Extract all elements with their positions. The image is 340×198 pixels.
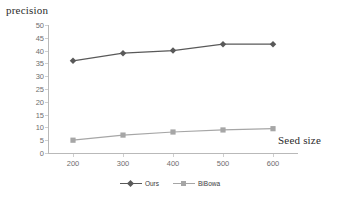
x-tick-label: 500 xyxy=(217,159,230,168)
data-point-marker xyxy=(170,129,175,134)
series-plot xyxy=(48,25,298,153)
x-tick-mark xyxy=(173,154,174,157)
y-tick-label: 50 xyxy=(36,21,44,30)
series-ours xyxy=(70,41,277,64)
precision-vs-seed-size-chart: precision Seed size 05101520253035404550… xyxy=(0,0,340,198)
x-tick-label: 600 xyxy=(267,159,280,168)
legend-entry-bibowa[interactable]: BiBowa xyxy=(173,180,220,187)
data-point-marker xyxy=(220,41,227,48)
legend-entry-ours[interactable]: Ours xyxy=(120,180,159,187)
x-tick-label: 200 xyxy=(67,159,80,168)
x-tick-mark xyxy=(73,154,74,157)
y-axis-title: precision xyxy=(6,4,48,16)
data-point-marker xyxy=(120,132,125,137)
legend-label: BiBowa xyxy=(198,180,220,187)
x-tick-mark xyxy=(223,154,224,157)
legend-swatch-icon xyxy=(120,180,142,187)
y-tick-label: 35 xyxy=(36,59,44,68)
data-point-marker xyxy=(270,41,277,48)
data-point-marker xyxy=(220,127,225,132)
legend-marker-diamond-icon xyxy=(127,180,134,187)
chart-legend: OursBiBowa xyxy=(0,180,340,187)
y-tick-label: 20 xyxy=(36,97,44,106)
y-tick-label: 40 xyxy=(36,46,44,55)
legend-label: Ours xyxy=(145,180,159,187)
y-tick-label: 15 xyxy=(36,110,44,119)
legend-swatch-icon xyxy=(173,180,195,187)
data-point-marker xyxy=(120,50,127,57)
data-point-marker xyxy=(70,138,75,143)
y-tick-label: 30 xyxy=(36,72,44,81)
x-tick-mark xyxy=(123,154,124,157)
legend-marker-square-icon xyxy=(181,181,186,186)
y-tick-label: 5 xyxy=(40,136,44,145)
y-tick-label: 45 xyxy=(36,33,44,42)
x-tick-mark xyxy=(273,154,274,157)
y-tick-label: 25 xyxy=(36,85,44,94)
x-tick-label: 400 xyxy=(167,159,180,168)
data-point-marker xyxy=(70,58,77,65)
y-tick-label: 0 xyxy=(40,149,44,158)
y-tick-mark xyxy=(45,153,48,154)
x-tick-label: 300 xyxy=(117,159,130,168)
series-bibowa xyxy=(70,126,275,143)
data-point-marker xyxy=(170,47,177,54)
data-point-marker xyxy=(270,126,275,131)
y-tick-label: 10 xyxy=(36,123,44,132)
plot-area: 05101520253035404550 200300400500600 xyxy=(48,25,298,153)
